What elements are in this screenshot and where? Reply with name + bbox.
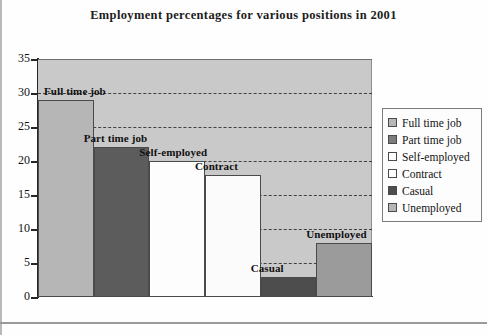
bar-part-time-job[interactable]	[94, 147, 150, 297]
y-axis-tick-label: 10	[2, 221, 30, 236]
legend-label: Part time job	[402, 134, 461, 146]
legend-label: Self-employed	[402, 151, 470, 163]
chart-legend: Full time jobPart time jobSelf-employedC…	[382, 108, 482, 222]
y-axis-tick	[31, 229, 38, 231]
bar-label-contract: Contract	[195, 160, 238, 172]
legend-label: Full time job	[402, 117, 461, 129]
legend-label: Contract	[402, 168, 442, 180]
y-axis-tick-label: 15	[2, 187, 30, 202]
legend-item[interactable]: Casual	[388, 182, 477, 199]
legend-item[interactable]: Contract	[388, 165, 477, 182]
plot-area: Full time jobPart time jobSelf-employedC…	[38, 59, 372, 297]
legend-swatch-icon	[388, 135, 397, 144]
y-axis-tick-label: 35	[2, 51, 30, 66]
y-axis-tick	[31, 127, 38, 129]
y-axis-tick-label: 0	[2, 289, 30, 304]
y-axis-tick	[31, 161, 38, 163]
bar-slot	[149, 59, 205, 297]
frame-bottom-border	[0, 322, 487, 324]
bar-slot	[316, 59, 372, 297]
y-axis-tick-label: 30	[2, 85, 30, 100]
bar-label-full-time-job: Full time job	[44, 85, 106, 97]
legend-swatch-icon	[388, 169, 397, 178]
legend-item[interactable]: Self-employed	[388, 148, 477, 165]
bar-label-casual: Casual	[251, 262, 284, 274]
y-axis-tick	[31, 297, 38, 299]
legend-item[interactable]: Full time job	[388, 114, 477, 131]
y-axis-tick-label: 20	[2, 153, 30, 168]
chart-canvas: Employment percentages for various posit…	[0, 0, 487, 335]
y-axis-tick	[31, 195, 38, 197]
legend-label: Casual	[402, 185, 433, 197]
legend-swatch-icon	[388, 203, 397, 212]
y-axis-tick-label: 5	[2, 255, 30, 270]
y-axis-tick	[31, 59, 38, 61]
bar-self-employed[interactable]	[149, 161, 205, 297]
chart-title: Employment percentages for various posit…	[0, 8, 487, 23]
legend-item[interactable]: Unemployed	[388, 199, 477, 216]
y-axis-tick	[31, 263, 38, 265]
y-axis-tick	[31, 93, 38, 95]
bar-label-unemployed: Unemployed	[306, 228, 366, 240]
bar-casual[interactable]	[261, 277, 317, 297]
bar-unemployed[interactable]	[316, 243, 372, 297]
legend-swatch-icon	[388, 152, 397, 161]
legend-swatch-icon	[388, 118, 397, 127]
bar-label-self-employed: Self-employed	[139, 146, 207, 158]
bar-contract[interactable]	[205, 175, 261, 297]
bar-label-part-time-job: Part time job	[84, 132, 148, 144]
y-axis: 35302520151050	[0, 0, 30, 335]
legend-swatch-icon	[388, 186, 397, 195]
legend-item[interactable]: Part time job	[388, 131, 477, 148]
bar-full-time-job[interactable]	[38, 100, 94, 297]
legend-label: Unemployed	[402, 202, 461, 214]
y-axis-tick-label: 25	[2, 119, 30, 134]
